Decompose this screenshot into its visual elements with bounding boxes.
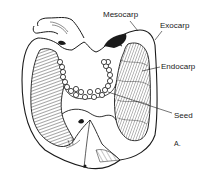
label-mesocarp: Mesocarp [103, 11, 138, 19]
pepper-fruit-diagram: Mesocarp Exocarp Endocarp Seed A. [0, 0, 209, 180]
label-exocarp: Exocarp [160, 22, 189, 30]
right-locule [115, 43, 151, 141]
label-endocarp: Endocarp [161, 63, 195, 71]
label-seed: Seed [174, 112, 193, 120]
exocarp-leader [155, 31, 162, 40]
mesocarp-leader [130, 21, 138, 31]
panel-label: A. [174, 140, 181, 147]
left-locule [31, 49, 74, 147]
seeds [57, 59, 112, 99]
